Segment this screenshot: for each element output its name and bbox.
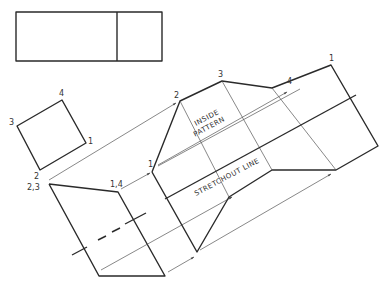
label-pattern-2: 2	[174, 91, 179, 100]
front-view: 2,3 1,4	[27, 180, 165, 276]
label-square-3: 3	[9, 118, 14, 127]
inside-pattern: 1 2 3 4 1 INSIDE PATTERN STRETCHOUT LINE	[148, 54, 378, 252]
label-square-1: 1	[88, 137, 93, 146]
label-square-2: 2	[34, 172, 39, 181]
label-pattern-3: 3	[218, 70, 223, 79]
label-pattern-1-start: 1	[148, 160, 153, 169]
label-pattern-1-end: 1	[329, 54, 334, 63]
development-drawing: 4 3 2 1 2,3 1,4 1 2 3 4	[0, 0, 389, 288]
stretchout-label: STRETCHOUT LINE	[193, 157, 261, 198]
label-pattern-4: 4	[287, 77, 292, 86]
label-front-23: 2,3	[27, 183, 40, 192]
top-rectangle-view	[16, 12, 162, 61]
projection-lines	[49, 92, 331, 272]
end-view-square: 4 3 2 1	[9, 89, 93, 181]
label-front-14: 1,4	[110, 180, 123, 189]
label-square-4: 4	[59, 89, 64, 98]
